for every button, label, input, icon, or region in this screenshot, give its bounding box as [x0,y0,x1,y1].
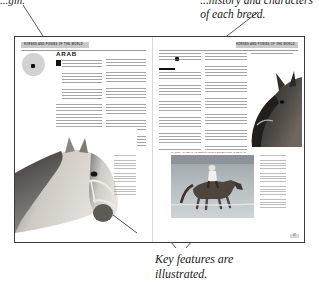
callout-dot-origin [31,64,35,68]
photo-caption-column [114,155,136,195]
body-column-r2 [205,53,247,150]
annotation-origin: ...gin. [0,0,25,7]
left-page: HORSES AND PONIES OF THE WORLD ARAB [15,37,153,242]
body-column-r1b [159,72,201,150]
running-head-left-text: HORSES AND PONIES OF THE WORLD [21,42,89,46]
photo-endurance-rider [171,155,254,218]
right-page: HORSES AND PONIES OF THE WORLD [153,37,304,242]
header-rule-right [159,50,298,51]
page-number-box: 37 [290,234,299,239]
header-rule-left [21,50,146,51]
annotation-history: ...history and characters of each breed. [200,0,313,21]
body-column-r1a [159,53,201,65]
running-head-right-text: HORSES AND PONIES OF THE WORLD [236,42,298,46]
running-head-right: HORSES AND PONIES OF THE WORLD [236,42,298,48]
body-column-1a [62,60,102,102]
book-spread: HORSES AND PONIES OF THE WORLD ARAB [14,36,305,243]
annotation-key-features: Key features are illustrated. [155,252,233,281]
drop-cap [56,60,61,66]
running-head-left: HORSES AND PONIES OF THE WORLD [21,42,89,48]
page-number: 37 [290,234,299,238]
breed-headline: ARAB [56,50,77,57]
photo-dark-horse-head [249,55,302,147]
subhead-arab-today [159,68,175,70]
photo-caption-endurance: RACING ARABS IN AN ENDURANCE COMPETITION… [171,151,246,153]
body-column-r4 [260,155,286,211]
